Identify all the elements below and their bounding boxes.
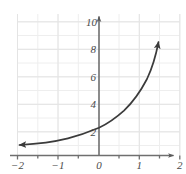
x-tick-label-0: 0 [96, 160, 102, 171]
x-tick-label-2: 2 [177, 160, 183, 171]
y-tick-label-8: 8 [91, 44, 97, 55]
y-tick-label-4: 4 [91, 99, 97, 110]
exponential-curve [20, 42, 159, 145]
y-tick-label-2: 2 [91, 126, 97, 137]
x-tick-label--2: −2 [11, 160, 24, 171]
exponential-function-graph: −2 −1 0 1 2 2 4 6 8 10 [0, 0, 186, 174]
x-tick-label-1: 1 [137, 160, 143, 171]
x-tick-label--1: −1 [52, 160, 65, 171]
y-tick-label-6: 6 [91, 71, 97, 82]
y-tick-label-10: 10 [86, 16, 97, 27]
